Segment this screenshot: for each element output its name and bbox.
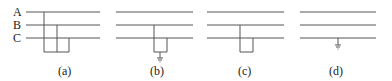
panel-caption-b: (b) [150,64,164,78]
panel-d: (d) [300,12,376,78]
ground-icon [335,45,341,49]
phase-label-a: A [13,5,22,19]
panel-c: (c) [207,12,284,78]
panel-caption-a: (a) [58,64,71,78]
fault-types-diagram: A B C (a) (b) (c) [0,0,392,81]
panel-b: (b) [116,12,193,78]
phase-label-c: C [13,31,21,45]
ground-icon [157,58,163,62]
panel-a: (a) [26,12,100,78]
phase-label-b: B [13,18,21,32]
panel-caption-c: (c) [238,64,251,78]
panel-caption-d: (d) [329,64,343,78]
